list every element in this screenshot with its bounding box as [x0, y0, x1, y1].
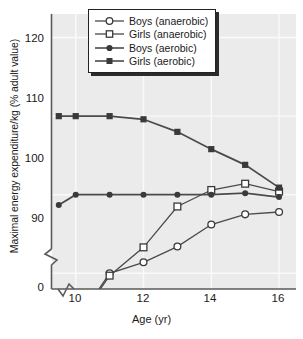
legend-label: Boys (anaerobic) — [125, 15, 208, 27]
legend-item-girls-anaerobic: Girls (anaerobic) — [94, 28, 208, 42]
y-axis-tick-labels: 120 110 100 90 0 — [0, 0, 52, 339]
legend-item-girls-aerobic: Girls (aerobic) — [94, 55, 208, 69]
legend-label: Boys (aerobic) — [125, 42, 197, 54]
legend-label: Girls (anaerobic) — [125, 28, 207, 40]
x-tick-12: 12 — [123, 292, 163, 304]
figure-chart: Maximal energy expenditure/kg (% adult v… — [0, 0, 303, 339]
open-circle-icon — [94, 15, 125, 27]
x-tick-10: 10 — [55, 292, 95, 304]
y-tick-90: 90 — [0, 212, 44, 224]
y-tick-110: 110 — [0, 92, 44, 104]
y-tick-100: 100 — [0, 152, 44, 164]
filled-circle-icon — [94, 42, 125, 54]
x-tick-14: 14 — [190, 292, 230, 304]
legend-item-boys-aerobic: Boys (aerobic) — [94, 41, 208, 55]
legend-item-boys-anaerobic: Boys (anaerobic) — [94, 14, 208, 28]
legend: Boys (anaerobic) Girls (anaerobic) Boys … — [88, 9, 216, 73]
y-tick-120: 120 — [0, 32, 44, 44]
filled-square-icon — [94, 55, 125, 67]
legend-label: Girls (aerobic) — [125, 55, 195, 67]
x-axis-title: Age (yr) — [0, 313, 303, 325]
y-tick-zero: 0 — [0, 281, 44, 293]
x-tick-16: 16 — [258, 292, 298, 304]
open-square-icon — [94, 28, 125, 40]
